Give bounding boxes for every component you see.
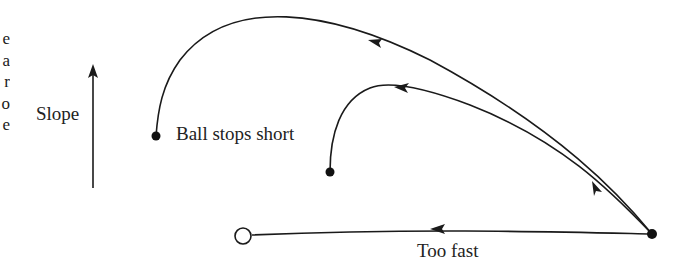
stop-point-1 (152, 132, 161, 141)
hole-icon (235, 228, 251, 244)
trajectory-too-fast (252, 224, 652, 235)
direction-arrow-icon (368, 39, 382, 48)
slope-arrow-icon (88, 64, 98, 188)
trajectory-diagram (0, 0, 682, 273)
direction-arrow-icon (394, 83, 409, 93)
ball-stops-short-label: Ball stops short (176, 123, 294, 145)
ball-start-point (647, 229, 657, 239)
trajectory-small-arc (330, 83, 652, 234)
too-fast-label: Too fast (417, 240, 478, 262)
stop-point-2 (326, 168, 335, 177)
slope-label: Slope (36, 103, 79, 125)
direction-arrow-icon (430, 224, 445, 234)
